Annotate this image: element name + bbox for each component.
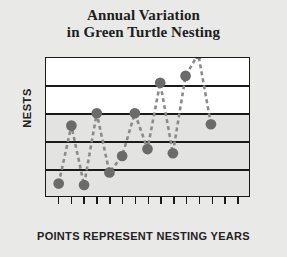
data-point: [180, 71, 191, 82]
data-point: [53, 178, 64, 189]
x-axis-tick: [58, 197, 60, 204]
x-axis-tick: [199, 197, 201, 204]
data-point: [129, 108, 140, 119]
data-point: [142, 144, 153, 155]
chart-figure: Annual Variation in Green Turtle Nesting…: [0, 0, 287, 257]
chart-title-line-2: in Green Turtle Nesting: [0, 24, 287, 41]
x-axis-tick: [160, 197, 162, 204]
y-axis-label: NESTS: [21, 73, 33, 143]
data-point: [193, 58, 204, 59]
x-axis-tick: [224, 197, 226, 204]
x-axis-tick: [135, 197, 137, 204]
x-axis-tick: [71, 197, 73, 204]
x-axis-tick: [83, 197, 85, 204]
data-point: [104, 167, 115, 178]
x-axis-ticks: [45, 197, 250, 206]
x-axis-tick: [212, 197, 214, 204]
data-point: [206, 119, 217, 130]
x-axis-tick: [173, 197, 175, 204]
x-axis-tick: [237, 197, 239, 204]
x-axis-tick: [109, 197, 111, 204]
x-axis-caption: POINTS REPRESENT NESTING YEARS: [0, 230, 287, 242]
series-markers: [53, 58, 216, 190]
data-point: [168, 148, 179, 159]
data-point: [79, 180, 90, 191]
data-point: [117, 151, 128, 162]
x-axis-tick: [122, 197, 124, 204]
data-point: [91, 108, 102, 119]
series-svg: [46, 58, 249, 196]
x-axis-tick: [96, 197, 98, 204]
plot-area: [45, 57, 250, 197]
data-series-layer: [46, 58, 249, 196]
chart-title: Annual Variation in Green Turtle Nesting: [0, 7, 287, 41]
x-axis-tick: [148, 197, 150, 204]
x-axis-tick: [186, 197, 188, 204]
chart-title-line-1: Annual Variation: [87, 7, 200, 23]
data-point: [66, 120, 77, 131]
data-point: [155, 78, 166, 89]
